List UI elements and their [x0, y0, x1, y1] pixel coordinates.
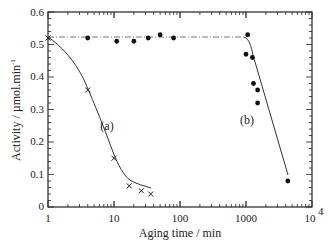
data-point-x [127, 183, 132, 188]
y-axis-title: Activity / µmol.min-1 [9, 59, 23, 161]
data-point-circle [245, 32, 250, 37]
data-point-circle [171, 36, 176, 41]
data-point-x [148, 192, 153, 197]
data-point-circle [285, 179, 290, 184]
y-tick-label: 0.1 [30, 168, 44, 180]
y-tick-label: 0 [39, 200, 45, 212]
y-tick-label: 0.2 [30, 135, 44, 147]
annotation-b: (b) [240, 113, 254, 127]
curve-a [48, 37, 151, 188]
y-tick-label: 0.4 [30, 70, 44, 82]
data-point-circle [146, 36, 151, 41]
data-point-circle [250, 55, 255, 60]
data-point-circle [244, 52, 249, 57]
data-point-circle [114, 39, 119, 44]
y-tick-label: 0.5 [30, 38, 44, 50]
data-point-circle [131, 39, 136, 44]
y-tick-label: 0.3 [30, 103, 44, 115]
data-point-circle [85, 36, 90, 41]
x-tick-label: 1 [45, 212, 51, 224]
x-tick-label: 1000 [235, 212, 258, 224]
data-point-circle [158, 32, 163, 37]
data-point-circle [255, 88, 260, 93]
x-tick-label-exponent: 4 [318, 205, 324, 217]
x-tick-label: 10 [305, 212, 317, 224]
chart: 0 0.1 0.2 0.3 0.4 0.5 0.6 1 10 100 1000 … [0, 0, 329, 240]
data-point-circle [251, 81, 256, 86]
y-tick-label: 0.6 [30, 6, 44, 18]
y-axis-ticks [48, 12, 312, 207]
x-axis-title: Aging time / min [139, 226, 221, 240]
annotation-a: (a) [100, 119, 113, 133]
x-tick-label: 10 [109, 212, 121, 224]
plot-frame [48, 12, 312, 207]
x-tick-label: 100 [172, 212, 189, 224]
data-point-x [139, 188, 144, 193]
x-axis-ticks [48, 12, 312, 207]
data-point-circle [255, 101, 260, 106]
